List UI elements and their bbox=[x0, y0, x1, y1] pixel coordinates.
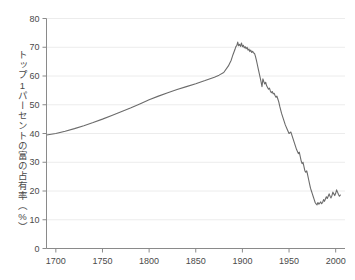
x-tick-label-1950: 1950 bbox=[279, 256, 299, 266]
x-tick-label-1900: 1900 bbox=[232, 256, 252, 266]
y-tick-label-30: 30 bbox=[29, 157, 39, 167]
y-tick-label-70: 70 bbox=[29, 42, 39, 52]
y-tick-label-0: 0 bbox=[34, 244, 39, 254]
x-tick-label-1800: 1800 bbox=[139, 256, 159, 266]
gridlines bbox=[47, 19, 346, 220]
x-tick-labels: 1700175018001850190019502000 bbox=[46, 256, 346, 266]
x-tick-label-1750: 1750 bbox=[92, 256, 112, 266]
y-tick-label-10: 10 bbox=[29, 215, 39, 225]
y-tick-label-80: 80 bbox=[29, 14, 39, 24]
chart-plot-area: 01020304050607080 1700175018001850190019… bbox=[0, 0, 355, 280]
y-tick-label-20: 20 bbox=[29, 186, 39, 196]
x-tick-label-2000: 2000 bbox=[326, 256, 346, 266]
x-tick-label-1700: 1700 bbox=[46, 256, 66, 266]
series-line-0 bbox=[47, 42, 341, 205]
y-tick-label-50: 50 bbox=[29, 100, 39, 110]
y-tick-labels: 01020304050607080 bbox=[29, 14, 39, 254]
chart-container: トップ1パーセントの富の占有率（%） 01020304050607080 170… bbox=[0, 0, 355, 280]
data-series-group bbox=[47, 42, 341, 205]
y-tick-label-60: 60 bbox=[29, 71, 39, 81]
y-tick-label-40: 40 bbox=[29, 129, 39, 139]
x-tick-label-1850: 1850 bbox=[186, 256, 206, 266]
